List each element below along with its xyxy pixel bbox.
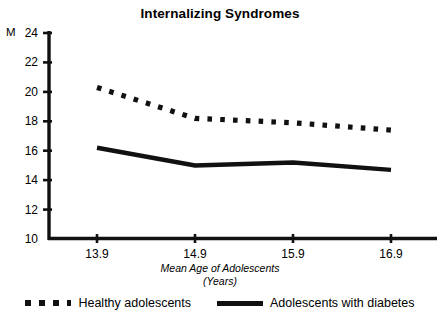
- x-tick-label-13-9: 13.9: [67, 247, 127, 261]
- x-tick-label-15-9: 15.9: [263, 247, 323, 261]
- chart-figure: Internalizing Syndromes M 24 22 20 18 16…: [0, 0, 440, 322]
- y-tick-label-14: 14: [12, 173, 38, 187]
- x-tick-label-14-9: 14.9: [165, 247, 225, 261]
- legend-item-healthy-adolescents[interactable]: Healthy adolescents: [25, 296, 191, 310]
- y-tick-label-12: 12: [12, 203, 38, 217]
- legend-item-adolescents-with-diabetes[interactable]: Adolescents with diabetes: [217, 296, 415, 310]
- y-tick-label-16: 16: [12, 144, 38, 158]
- series-line-healthy-adolescents: [97, 87, 391, 130]
- legend-label-healthy-adolescents: Healthy adolescents: [78, 296, 191, 310]
- x-axis-title: Mean Age of Adolescents (Years): [0, 262, 440, 288]
- solid-line-swatch-icon: [217, 301, 263, 306]
- dotted-line-swatch-icon: [25, 300, 71, 306]
- legend-label-adolescents-with-diabetes: Adolescents with diabetes: [270, 296, 415, 310]
- x-axis-title-line1: Mean Age of Adolescents: [0, 262, 440, 275]
- axes: [48, 31, 437, 240]
- x-axis-title-line2: (Years): [0, 275, 440, 288]
- y-tick-label-10: 10: [12, 232, 38, 246]
- y-tick-label-22: 22: [12, 55, 38, 69]
- x-tick-label-16-9: 16.9: [361, 247, 421, 261]
- y-tick-label-18: 18: [12, 114, 38, 128]
- y-tick-label-24: 24: [12, 26, 38, 40]
- y-tick-label-20: 20: [12, 85, 38, 99]
- series-line-adolescents-with-diabetes: [97, 148, 391, 170]
- chart-legend: Healthy adolescents Adolescents with dia…: [0, 296, 440, 310]
